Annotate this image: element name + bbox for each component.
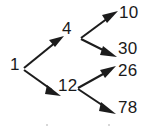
edge-12-to-78 <box>78 89 116 114</box>
edge-12-to-26 <box>78 66 116 88</box>
scan-artifact <box>108 124 110 126</box>
node-label-10: 10 <box>119 4 139 21</box>
node-label-root: 1 <box>10 56 20 73</box>
edge-4-to-10 <box>81 11 118 38</box>
tree-diagram: 1 4 12 10 30 26 78 <box>0 0 155 128</box>
node-label-12: 12 <box>58 77 78 94</box>
node-label-30: 30 <box>118 40 138 57</box>
node-label-78: 78 <box>118 99 138 116</box>
edge-4-to-30 <box>81 39 117 57</box>
edge-root-to-4 <box>24 36 64 68</box>
edge-root-to-12 <box>24 70 61 96</box>
node-label-4: 4 <box>62 20 72 37</box>
node-label-26: 26 <box>118 62 138 79</box>
scan-artifact <box>46 124 48 126</box>
